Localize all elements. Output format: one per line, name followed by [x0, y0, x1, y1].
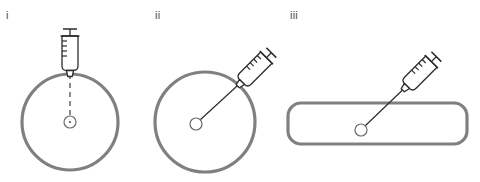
panel-label-iii: iii	[290, 10, 298, 21]
panel-label-i: i	[6, 10, 9, 21]
panel-iii-body-rounded-rect	[288, 103, 467, 144]
panel-i	[22, 29, 118, 170]
panel-iii	[288, 50, 467, 144]
panel-ii	[155, 46, 278, 172]
panel-i-target-center-dot	[69, 121, 71, 123]
panel-iii-syringe	[396, 50, 443, 97]
panel-ii-target-ring	[190, 118, 202, 130]
panel-label-ii: ii	[155, 10, 160, 21]
injection-schematic-figure: i ii iii	[0, 0, 480, 182]
panel-iii-target-ring	[355, 124, 367, 136]
panel-ii-syringe	[231, 46, 278, 93]
panel-i-syringe	[61, 29, 80, 77]
figure-canvas	[0, 0, 480, 182]
